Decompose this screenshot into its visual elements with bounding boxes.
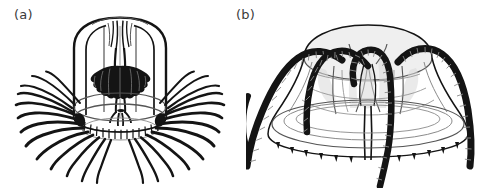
panel-label-a: (a) bbox=[14, 8, 33, 21]
figure-root: (a) bbox=[0, 0, 493, 188]
tentacle-fragment-left-edge bbox=[246, 96, 248, 152]
panel-a: (a) bbox=[0, 0, 246, 188]
panel-b: (b) bbox=[246, 0, 493, 188]
illustration-hydromedusa-tall-bell bbox=[0, 0, 246, 188]
panel-label-b: (b) bbox=[236, 8, 255, 21]
ring-canal-b bbox=[268, 100, 468, 157]
illustration-hydromedusa-flat-bell bbox=[246, 0, 493, 188]
